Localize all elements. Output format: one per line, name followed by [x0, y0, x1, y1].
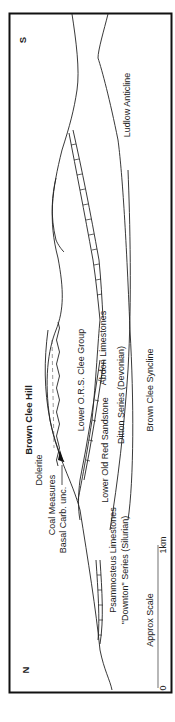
brown-clee-syncline-label: Brown Clee Syncline — [145, 348, 155, 431]
north-label: N — [20, 666, 31, 673]
ditton-series-label: Ditton Series (Devonian) — [116, 346, 126, 444]
lower-old-red-label: Lower Old Red Sandstone — [100, 397, 110, 503]
scale-start: 0 — [158, 685, 168, 690]
scale-label: Approx Scale — [145, 593, 155, 647]
coal-measures-label: Coal Measures — [47, 474, 57, 535]
dolerite-lens-main — [45, 330, 64, 462]
abdon-limestone-band-bottom — [73, 130, 103, 318]
basal-carb-label: Basal Carb. unc. — [58, 487, 68, 554]
abdon-limestones-label: Abdon Limestones — [98, 310, 108, 385]
scale-end: 1km — [158, 536, 168, 553]
brown-clee-hill-title: Brown Clee Hill — [23, 385, 34, 455]
psammosteus-label: Psammosteus Limestones — [108, 507, 118, 613]
cross-section-diagram: S N Ludlow Anticline Brown Clee Syncline… — [0, 0, 175, 722]
wavy-unconformity-main — [57, 322, 60, 466]
abdon-limestone-band-top — [69, 133, 100, 500]
lower-ors-clee-label: Lower O.R.S. Clee Group — [76, 329, 86, 432]
south-label: S — [17, 37, 28, 43]
psammosteus-band-bottom — [100, 560, 102, 644]
downton-label: "Downton" Series (Silurian) — [120, 516, 130, 624]
dolerite-label: Dolerite — [34, 454, 44, 485]
ludlow-anticline-label: Ludlow Anticline — [122, 73, 132, 138]
